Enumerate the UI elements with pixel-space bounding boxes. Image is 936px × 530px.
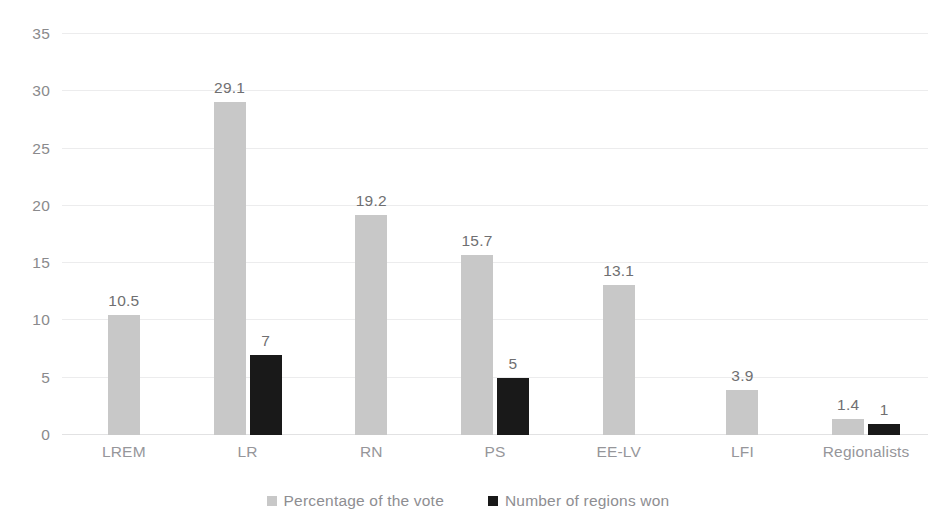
bar-percentage-of-the-vote: 3.9 xyxy=(726,390,758,435)
bar-number-of-regions-won: 1 xyxy=(868,424,900,435)
bar-value-label: 7 xyxy=(261,332,270,350)
y-axis-tick-label: 30 xyxy=(0,82,50,100)
x-axis-tick-label: EE-LV xyxy=(596,443,641,461)
y-axis: 05101520253035 xyxy=(0,0,50,530)
bar-value-label: 15.7 xyxy=(462,232,493,250)
legend-label: Number of regions won xyxy=(505,492,669,510)
y-axis-tick-label: 15 xyxy=(0,254,50,272)
bar-percentage-of-the-vote: 1.4 xyxy=(832,419,864,435)
plot-area: 10.529.1719.215.7513.13.91.41 xyxy=(62,34,928,435)
bar-value-label: 1.4 xyxy=(837,396,859,414)
bar-percentage-of-the-vote: 29.1 xyxy=(214,102,246,435)
x-axis-tick-label: PS xyxy=(484,443,505,461)
x-axis-tick-label: LFI xyxy=(731,443,754,461)
gridline xyxy=(62,205,928,206)
y-axis-tick-label: 5 xyxy=(0,369,50,387)
bar-value-label: 19.2 xyxy=(356,192,387,210)
y-axis-tick-label: 10 xyxy=(0,311,50,329)
x-axis-tick-label: Regionalists xyxy=(823,443,910,461)
legend-item[interactable]: Percentage of the vote xyxy=(267,492,444,510)
legend-label: Percentage of the vote xyxy=(284,492,444,510)
bar-chart: 05101520253035 10.529.1719.215.7513.13.9… xyxy=(0,0,936,530)
chart-legend: Percentage of the voteNumber of regions … xyxy=(0,492,936,510)
bar-percentage-of-the-vote: 13.1 xyxy=(603,285,635,435)
bar-percentage-of-the-vote: 19.2 xyxy=(355,215,387,435)
bar-value-label: 5 xyxy=(509,355,518,373)
bar-percentage-of-the-vote: 10.5 xyxy=(108,315,140,435)
bar-value-label: 13.1 xyxy=(603,262,634,280)
bar-percentage-of-the-vote: 15.7 xyxy=(461,255,493,435)
y-axis-tick-label: 20 xyxy=(0,197,50,215)
legend-swatch-gray-icon xyxy=(267,496,277,506)
bar-value-label: 3.9 xyxy=(731,367,753,385)
gridline xyxy=(62,377,928,378)
x-axis: LREMLRRNPSEE-LVLFIRegionalists xyxy=(62,443,928,473)
bar-number-of-regions-won: 5 xyxy=(497,378,529,435)
y-axis-tick-label: 35 xyxy=(0,25,50,43)
x-axis-tick-label: LR xyxy=(237,443,257,461)
gridline xyxy=(62,262,928,263)
bar-value-label: 10.5 xyxy=(108,292,139,310)
gridline xyxy=(62,33,928,34)
x-axis-tick-label: RN xyxy=(360,443,383,461)
bar-value-label: 1 xyxy=(880,401,889,419)
bar-number-of-regions-won: 7 xyxy=(250,355,282,435)
gridline xyxy=(62,90,928,91)
gridline xyxy=(62,148,928,149)
gridline xyxy=(62,319,928,320)
gridline xyxy=(62,434,928,435)
legend-item[interactable]: Number of regions won xyxy=(488,492,669,510)
y-axis-tick-label: 25 xyxy=(0,140,50,158)
x-axis-tick-label: LREM xyxy=(102,443,146,461)
y-axis-tick-label: 0 xyxy=(0,426,50,444)
bar-value-label: 29.1 xyxy=(214,79,245,97)
legend-swatch-black-icon xyxy=(488,496,498,506)
